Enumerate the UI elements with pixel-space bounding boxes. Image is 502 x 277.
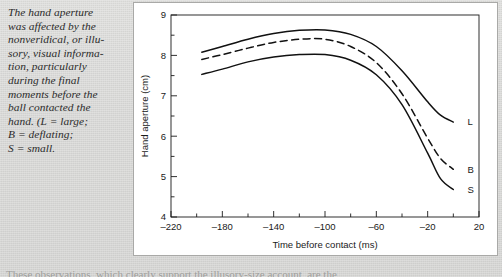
figure-panel: 456789 –220–180–140–100–60–2020 LBS Time… — [133, 2, 498, 256]
curve-S — [202, 54, 454, 189]
y-axis-ticks — [171, 15, 177, 217]
body-text-sliver: These observations, which clearly suppor… — [6, 268, 496, 277]
x-axis-title: Time before contact (ms) — [272, 239, 377, 250]
curve-label-S: S — [468, 184, 474, 195]
x-axis-tick-labels: –220–180–140–100–60–2020 — [160, 221, 484, 232]
y-tick-label: 9 — [161, 9, 166, 20]
x-tick-label: –140 — [263, 221, 284, 232]
hand-aperture-line-chart: 456789 –220–180–140–100–60–2020 LBS Time… — [134, 3, 497, 255]
curve-label-L: L — [468, 116, 473, 127]
y-tick-label: 6 — [161, 131, 166, 142]
y-tick-label: 5 — [161, 171, 166, 182]
x-tick-label: 20 — [474, 221, 485, 232]
y-tick-label: 8 — [161, 50, 166, 61]
y-axis-tick-labels: 456789 — [161, 9, 166, 222]
curve-L — [202, 30, 454, 122]
y-tick-label: 7 — [161, 90, 166, 101]
x-tick-label: –100 — [314, 221, 335, 232]
figure-caption: The hand aperture was affected by the no… — [8, 6, 128, 156]
plot-frame — [171, 15, 479, 217]
x-tick-label: –180 — [212, 221, 233, 232]
curve-B — [202, 39, 454, 170]
x-tick-label: –20 — [420, 221, 436, 232]
curve-label-B: B — [468, 164, 474, 175]
x-tick-label: –220 — [160, 221, 181, 232]
curve-end-labels: LBS — [468, 116, 474, 194]
data-curves — [202, 30, 454, 190]
x-axis-ticks — [171, 211, 479, 217]
x-tick-label: –60 — [368, 221, 384, 232]
y-axis-title: Hand aperture (cm) — [139, 75, 150, 157]
